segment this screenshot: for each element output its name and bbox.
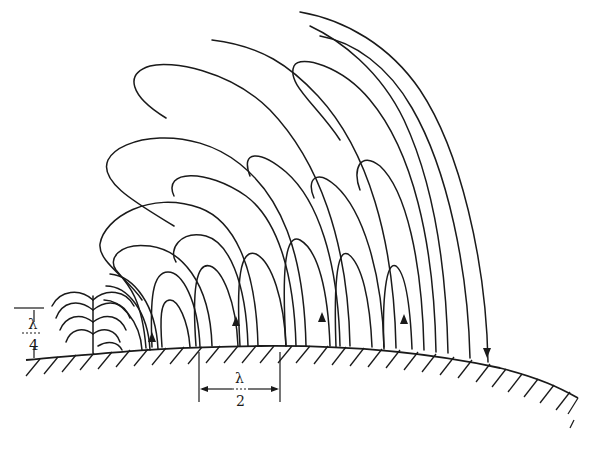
arrow-up-icon <box>400 314 408 324</box>
quarter-wave-denominator: 4 <box>29 336 39 354</box>
field-line-loops <box>100 12 488 362</box>
arrow-down-icon <box>483 348 491 358</box>
field-lines-diagram: λ 4 λ 2 <box>0 0 599 452</box>
quarter-wave-dimension: λ 4 <box>14 308 44 358</box>
half-wave-dimension: λ 2 <box>199 352 280 409</box>
quarter-wave-numerator: λ <box>28 315 38 333</box>
arrow-up-icon <box>318 312 326 322</box>
half-wave-denominator: 2 <box>236 393 245 409</box>
antenna-near-field <box>52 292 134 353</box>
half-wave-numerator: λ <box>235 370 244 386</box>
ground <box>26 346 578 428</box>
ground-hatching <box>26 346 578 428</box>
ground-line <box>26 346 578 398</box>
